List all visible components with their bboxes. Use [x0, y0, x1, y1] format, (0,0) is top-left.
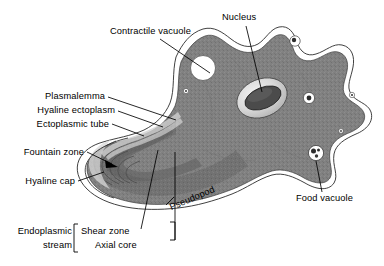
- small-vacuole: [349, 92, 354, 97]
- food-vacuole: [308, 145, 323, 160]
- label-plasmalemma: Plasmalemma: [0, 91, 105, 102]
- label-hyaline-cap: Hyaline cap: [0, 176, 75, 187]
- label-food-vacuole: Food vacuole: [296, 193, 353, 204]
- label-fountain-zone: Fountain zone: [0, 147, 84, 158]
- bracket-shear-axial: [170, 222, 175, 240]
- small-vacuole: [183, 88, 188, 93]
- label-endoplasmic-stream-line2: stream: [0, 240, 72, 251]
- label-axial-core: Axial core: [95, 240, 137, 251]
- label-hyaline-ectoplasm: Hyaline ectoplasm: [0, 105, 115, 116]
- label-nucleus: Nucleus: [222, 12, 256, 23]
- small-vacuole: [303, 92, 314, 103]
- small-vacuole: [339, 129, 344, 134]
- small-vacuole: [290, 36, 300, 46]
- leader-ectoplasmic-tube: [112, 124, 144, 136]
- label-ectoplasmic-tube: Ectoplasmic tube: [0, 119, 109, 130]
- label-endoplasmic-stream-line1: Endoplasmic: [0, 226, 72, 237]
- label-contractile-vacuole: Contractile vacuole: [110, 26, 191, 37]
- label-shear-zone: Shear zone: [81, 226, 130, 237]
- leader-plasmalemma: [108, 97, 176, 120]
- bracket-endoplasmic-stream: [74, 224, 78, 252]
- amoeba-diagram: Contractile vacuole Nucleus Plasmalemma …: [0, 0, 384, 266]
